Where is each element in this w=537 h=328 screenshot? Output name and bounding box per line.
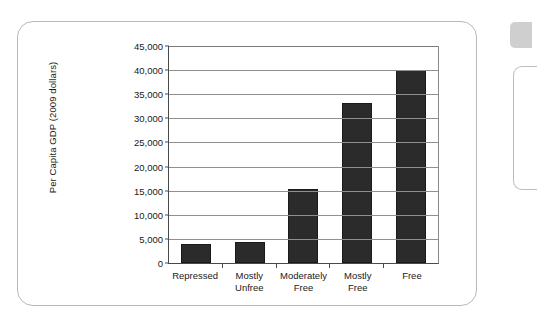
bar-slot [330,46,384,263]
figure-frame: Per Capita GDP (2009 dollars) 45,00040,0… [17,21,477,306]
y-tick-label: 40,000 [134,65,163,76]
x-axis-label-mostly-free: MostlyFree [331,270,385,293]
y-tick-label: 30,000 [134,113,163,124]
y-tick-mark [165,142,169,143]
gridline [169,239,438,240]
y-tick-mark [165,214,169,215]
x-tick-mark [329,263,330,268]
bar-chart: Per Capita GDP (2009 dollars) 45,00040,0… [18,22,478,307]
x-axis-label-free: Free [385,270,439,293]
y-tick-label: 35,000 [134,89,163,100]
y-tick-mark [165,46,169,47]
gridline [169,118,438,119]
x-axis-labels: RepressedMostlyUnfreeModeratelyFreeMostl… [168,270,439,293]
bar-repressed[interactable] [181,244,211,263]
gridline [169,70,438,71]
y-tick-mark [165,118,169,119]
y-tick-label: 25,000 [134,137,163,148]
x-tick-mark [222,263,223,268]
plot-area: 45,00040,00035,00030,00025,00020,00015,0… [168,46,439,264]
y-tick-mark [165,238,169,239]
y-tick-mark [165,94,169,95]
y-tick-label: 45,000 [134,41,163,52]
bar-slot [384,46,438,263]
y-tick-mark [165,70,169,71]
bar-mostly-unfree[interactable] [235,242,265,263]
gridline [169,167,438,168]
x-axis-label-moderately-free: ModeratelyFree [276,270,330,293]
x-axis-label-repressed: Repressed [168,270,222,293]
x-tick-mark [276,263,277,268]
page-margin-tab [510,22,532,48]
y-tick-mark [165,166,169,167]
gridline [169,191,438,192]
gridline [169,94,438,95]
y-tick-mark [165,263,169,264]
gridline [169,46,438,47]
bar-series [169,46,438,263]
x-tick-mark [383,263,384,268]
y-tick-label: 15,000 [134,185,163,196]
y-tick-label: 5,000 [139,233,163,244]
y-tick-label: 10,000 [134,209,163,220]
bar-slot [277,46,331,263]
y-axis-title: Per Capita GDP (2009 dollars) [47,38,58,218]
page-margin-callout-box [513,66,537,190]
bar-slot [223,46,277,263]
y-tick-label: 0 [158,258,163,269]
y-tick-mark [165,190,169,191]
gridline [169,215,438,216]
bar-moderately-free[interactable] [288,189,318,263]
bar-slot [169,46,223,263]
gridline [169,142,438,143]
y-tick-label: 20,000 [134,161,163,172]
x-axis-label-mostly-unfree: MostlyUnfree [222,270,276,293]
